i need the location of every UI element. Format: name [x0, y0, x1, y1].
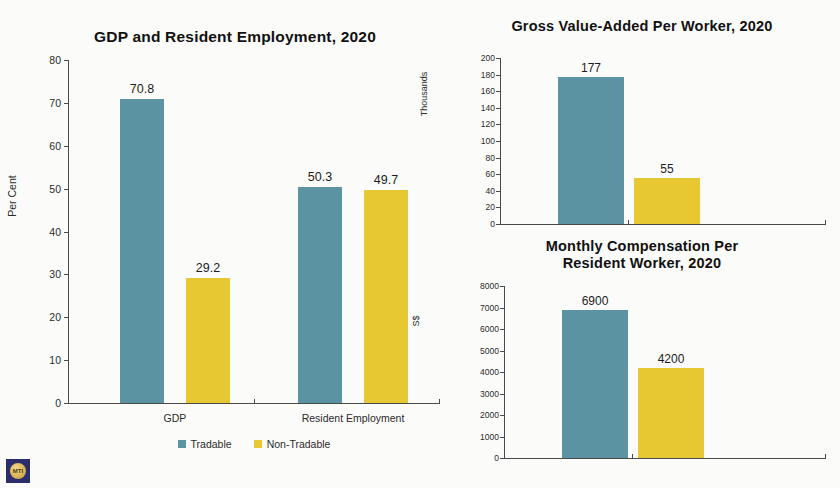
y-tick-label: 60	[49, 140, 61, 152]
y-tick-label: 0	[55, 397, 61, 409]
chart-title-compensation-line1: Monthly Compensation Per	[452, 238, 832, 255]
chart-title-gva: Gross Value-Added Per Worker, 2020	[452, 18, 832, 35]
y-axis-title-gdp: Per Cent	[6, 175, 18, 216]
chart-title-compensation-line2: Resident Worker, 2020	[452, 255, 832, 272]
chart-title-compensation: Monthly Compensation Per Resident Worker…	[452, 238, 832, 272]
y-tick-label: 70	[49, 97, 61, 109]
y-tick-1	[496, 124, 500, 125]
bar-value-label: 70.8	[82, 82, 202, 96]
plot-area-gdp: 0102030405060708070.829.250.349.7	[68, 60, 440, 404]
y-tick-label: 7000	[480, 303, 499, 313]
y-tick-label: 20	[49, 311, 61, 323]
y-tick-label: 6000	[480, 324, 499, 334]
y-tick-0	[64, 403, 68, 404]
y-tick-2	[500, 415, 504, 416]
y-tick-1	[496, 224, 500, 225]
legend-swatch-tradable-icon	[178, 440, 186, 448]
x-axis-tick	[254, 399, 255, 403]
y-tick-label: 100	[481, 136, 495, 146]
y-tick-1	[496, 191, 500, 192]
chart-title-gdp: GDP and Resident Employment, 2020	[20, 28, 450, 46]
chart-gross-value-added-per-worker: Gross Value-Added Per Worker, 2020 02040…	[452, 10, 832, 232]
y-tick-label: 140	[481, 103, 495, 113]
y-tick-label: 1000	[480, 432, 499, 442]
bar-value-label: 29.2	[148, 261, 268, 275]
x-axis-line-gva	[500, 224, 826, 225]
y-tick-2	[500, 437, 504, 438]
y-tick-label: 3000	[480, 389, 499, 399]
x-axis-line-compensation	[504, 458, 826, 459]
y-tick-label: 160	[481, 86, 495, 96]
y-tick-label: 8000	[480, 281, 499, 291]
y-tick-2	[500, 286, 504, 287]
legend-swatch-non-tradable-icon	[254, 440, 262, 448]
bar-gva-0-0	[558, 77, 624, 224]
y-tick-1	[496, 158, 500, 159]
logo-emblem-icon: MTI	[10, 463, 26, 479]
y-tick-2	[500, 372, 504, 373]
bar-compensation-0-0	[562, 310, 628, 458]
organisation-logo: MTI	[6, 459, 30, 483]
legend-label-tradable: Tradable	[191, 438, 232, 450]
plot-area-gva: 02040608010012014016018020017755	[500, 58, 826, 225]
y-tick-label: 20	[486, 202, 495, 212]
slide-canvas: GDP and Resident Employment, 2020 010203…	[0, 0, 840, 488]
bar-gva-0-1	[634, 178, 700, 224]
bar-gdp-0-1	[298, 187, 342, 403]
y-axis-line-gdp	[68, 60, 69, 404]
y-tick-label: 120	[481, 119, 495, 129]
y-tick-label: 200	[481, 53, 495, 63]
x-axis-end-tick	[825, 454, 826, 458]
y-tick-0	[64, 103, 68, 104]
bar-gdp-1-0	[186, 278, 230, 403]
y-axis-line-compensation	[504, 286, 505, 459]
y-tick-1	[496, 91, 500, 92]
y-tick-1	[496, 207, 500, 208]
legend-item-non-tradable: Non-Tradable	[254, 438, 331, 450]
y-tick-label: 2000	[480, 410, 499, 420]
y-tick-0	[64, 232, 68, 233]
x-axis-end-tick	[439, 399, 440, 403]
y-tick-1	[496, 58, 500, 59]
bar-value-label: 6900	[535, 294, 655, 308]
y-tick-2	[500, 308, 504, 309]
bar-value-label: 49.7	[326, 173, 446, 187]
y-tick-label: 0	[494, 453, 499, 463]
chart-monthly-compensation-per-resident-worker: Monthly Compensation Per Resident Worker…	[452, 234, 832, 470]
y-tick-0	[64, 317, 68, 318]
y-tick-label: 80	[49, 54, 61, 66]
chart-gdp-resident-employment: GDP and Resident Employment, 2020 010203…	[20, 24, 450, 456]
y-tick-0	[64, 146, 68, 147]
y-tick-label: 60	[486, 169, 495, 179]
y-tick-label: 5000	[480, 346, 499, 356]
bar-compensation-0-1	[638, 368, 704, 458]
bar-value-label: 4200	[611, 352, 731, 366]
bar-value-label: 55	[607, 162, 727, 176]
x-axis-end-tick	[825, 220, 826, 224]
y-tick-2	[500, 329, 504, 330]
y-tick-label: 4000	[480, 367, 499, 377]
y-axis-title-compensation: S$	[411, 315, 421, 326]
y-tick-0	[64, 274, 68, 275]
x-category-label: Resident Employment	[243, 412, 463, 424]
y-tick-1	[496, 75, 500, 76]
bar-value-label: 177	[531, 61, 651, 75]
bar-gdp-1-1	[364, 190, 408, 403]
y-tick-0	[64, 360, 68, 361]
y-axis-title-gva: Thousands	[419, 72, 429, 117]
bar-gdp-0-0	[120, 99, 164, 403]
y-tick-2	[500, 458, 504, 459]
y-tick-label: 30	[49, 268, 61, 280]
y-tick-label: 40	[49, 226, 61, 238]
y-tick-label: 50	[49, 183, 61, 195]
y-tick-label: 10	[49, 354, 61, 366]
y-tick-label: 180	[481, 70, 495, 80]
y-tick-label: 80	[486, 153, 495, 163]
y-tick-0	[64, 189, 68, 190]
plot-area-compensation: 0100020003000400050006000700080006900420…	[504, 286, 826, 459]
y-tick-1	[496, 108, 500, 109]
x-axis-tick	[628, 220, 629, 224]
y-tick-2	[500, 351, 504, 352]
y-tick-label: 0	[490, 219, 495, 229]
y-tick-1	[496, 174, 500, 175]
